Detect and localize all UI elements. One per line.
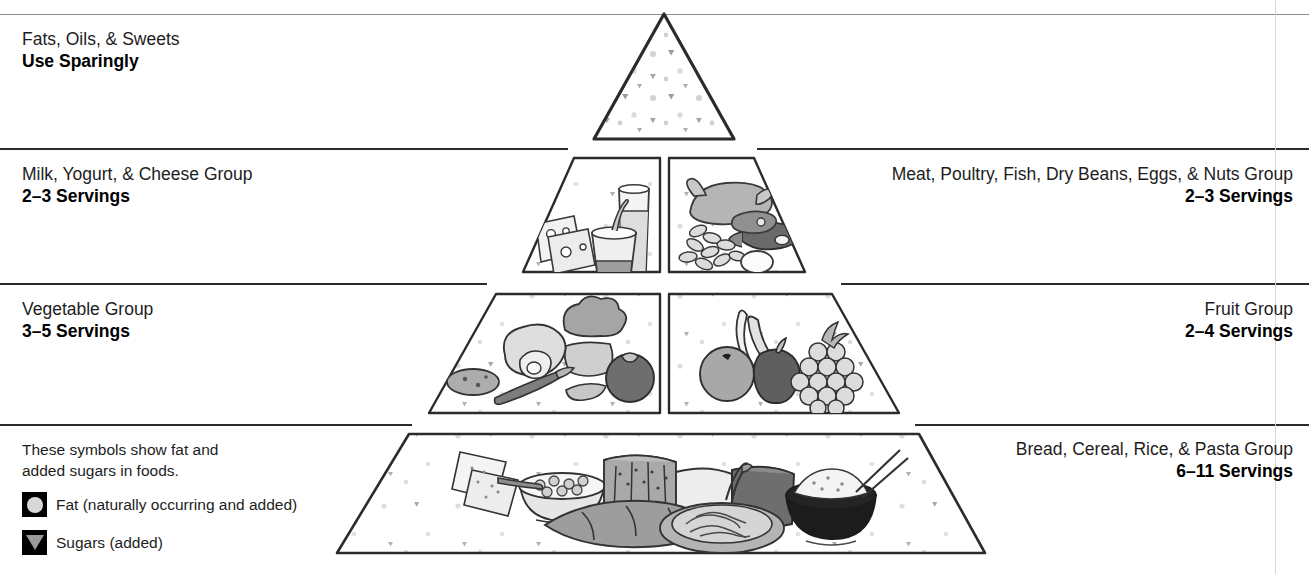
divider-tier4 bbox=[0, 424, 412, 426]
legend-item-sugars: Sugars (added) bbox=[22, 530, 163, 555]
food-pyramid-diagram: Fats, Oils, & Sweets Use Sparingly Milk,… bbox=[0, 0, 1309, 574]
tier-bread-shape bbox=[330, 428, 1000, 558]
label-vegetable-group: Vegetable Group bbox=[22, 298, 153, 320]
divider-top bbox=[0, 14, 1309, 15]
label-milk-yogurt-cheese-servings: 2–3 Servings bbox=[22, 185, 253, 207]
milk-food-illustration bbox=[536, 185, 649, 274]
tier-meat-shape bbox=[650, 150, 850, 290]
sugar-triangle-icon bbox=[22, 530, 47, 555]
tier-fruit-shape bbox=[660, 288, 930, 428]
tier-vegetable-shape bbox=[410, 288, 680, 428]
divider-tier4-right bbox=[915, 424, 1309, 426]
tier-milk-shape bbox=[500, 150, 700, 290]
label-meat-poultry-fish-servings: 2–3 Servings bbox=[892, 185, 1293, 207]
tier-apex-shape bbox=[560, 10, 780, 150]
label-vegetable: Vegetable Group 3–5 Servings bbox=[22, 298, 153, 343]
fat-circle-icon bbox=[22, 492, 47, 517]
legend-intro: These symbols show fat and added sugars … bbox=[22, 440, 218, 481]
fruit-food-illustration bbox=[700, 310, 863, 416]
label-fruit: Fruit Group 2–4 Servings bbox=[1185, 298, 1293, 343]
label-fats-oils-sweets: Fats, Oils, & Sweets Use Sparingly bbox=[22, 28, 180, 73]
label-meat-poultry-fish-group: Meat, Poultry, Fish, Dry Beans, Eggs, & … bbox=[892, 163, 1293, 185]
vegetable-food-illustration bbox=[447, 296, 654, 404]
divider-tier2 bbox=[0, 148, 568, 150]
legend-item-fat-label: Fat (naturally occurring and added) bbox=[56, 496, 297, 514]
label-bread-cereal-rice-pasta-group: Bread, Cereal, Rice, & Pasta Group bbox=[1016, 438, 1293, 460]
label-fats-oils-sweets-servings: Use Sparingly bbox=[22, 50, 180, 72]
label-vegetable-servings: 3–5 Servings bbox=[22, 320, 153, 342]
label-bread-cereal-rice-pasta: Bread, Cereal, Rice, & Pasta Group 6–11 … bbox=[1016, 438, 1293, 483]
label-milk-yogurt-cheese: Milk, Yogurt, & Cheese Group 2–3 Serving… bbox=[22, 163, 253, 208]
page-edge-line bbox=[1275, 0, 1276, 574]
label-bread-cereal-rice-pasta-servings: 6–11 Servings bbox=[1016, 460, 1293, 482]
label-fruit-servings: 2–4 Servings bbox=[1185, 320, 1293, 342]
divider-tier3-right bbox=[841, 283, 1309, 285]
label-fruit-group: Fruit Group bbox=[1185, 298, 1293, 320]
legend-item-sugars-label: Sugars (added) bbox=[56, 534, 163, 552]
pyramid-graphic bbox=[0, 0, 1309, 574]
divider-tier2-right bbox=[757, 148, 1309, 150]
label-milk-yogurt-cheese-group: Milk, Yogurt, & Cheese Group bbox=[22, 163, 253, 185]
legend-intro-line2: added sugars in foods. bbox=[22, 461, 218, 482]
label-meat-poultry-fish: Meat, Poultry, Fish, Dry Beans, Eggs, & … bbox=[892, 163, 1293, 208]
label-fats-oils-sweets-group: Fats, Oils, & Sweets bbox=[22, 28, 180, 50]
legend-item-fat: Fat (naturally occurring and added) bbox=[22, 492, 297, 517]
meat-food-illustration bbox=[678, 179, 798, 273]
divider-tier3 bbox=[0, 283, 487, 285]
bread-food-illustration bbox=[452, 450, 908, 553]
legend-intro-line1: These symbols show fat and bbox=[22, 440, 218, 461]
